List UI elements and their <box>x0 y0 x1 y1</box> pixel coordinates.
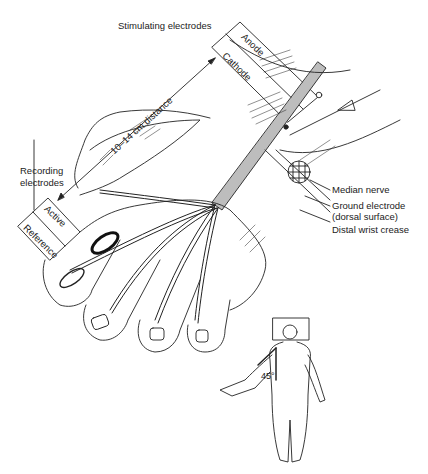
hand-outline <box>75 110 266 310</box>
patient-figure <box>220 318 325 462</box>
distal-wrist-crease-label: Distal wrist crease <box>332 224 409 236</box>
fingers <box>43 240 230 352</box>
recording-electrodes-label-2: electrodes <box>20 177 64 189</box>
arm-angle-label: 45° <box>261 370 275 382</box>
median-nerve <box>212 62 326 210</box>
nerve-branches <box>70 190 218 323</box>
stimulating-electrode-box <box>212 22 318 122</box>
diagram-canvas <box>0 0 428 474</box>
median-nerve-label: Median nerve <box>332 184 390 196</box>
forearm-outline <box>230 40 400 153</box>
ground-electrode-label-2: (dorsal surface) <box>332 211 398 223</box>
recording-electrodes-label-1: Recording <box>20 165 63 177</box>
ring-electrodes <box>57 229 121 291</box>
stimulating-electrodes-label: Stimulating electrodes <box>118 20 211 32</box>
ground-electrode <box>265 150 330 212</box>
